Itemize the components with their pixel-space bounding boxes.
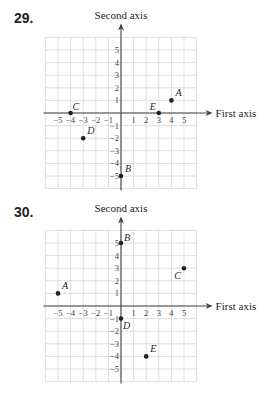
plots-canvas: First axisSecond axis−5−4−3−2−112345−5−4…: [0, 0, 272, 400]
x-tick-label: 4: [169, 115, 174, 125]
y-tick-label: −5: [110, 364, 119, 374]
point-B: [119, 241, 124, 246]
point-label-B: B: [124, 232, 130, 243]
y-tick-label: −2: [110, 133, 119, 143]
point-D: [81, 136, 86, 141]
x-tick-label: 1: [131, 115, 135, 125]
x-tick-label: −2: [91, 308, 100, 318]
y-tick-label: 2: [115, 83, 119, 93]
y-axis-label: Second axis: [95, 9, 148, 21]
x-tick-label: −3: [79, 115, 88, 125]
x-tick-label: 3: [157, 308, 161, 318]
x-tick-label: 5: [182, 115, 186, 125]
y-tick-label: −4: [110, 351, 120, 361]
point-label-C: C: [174, 270, 181, 281]
point-label-D: D: [122, 320, 131, 331]
x-tick-label: 4: [169, 308, 174, 318]
x-tick-label: 2: [144, 115, 148, 125]
coordinate-plane-30: First axisSecond axis−5−4−3−2−112345−5−4…: [43, 202, 256, 383]
x-tick-label: 5: [182, 308, 186, 318]
coordinate-plane-29: First axisSecond axis−5−4−3−2−112345−5−4…: [43, 9, 256, 190]
y-axis-label: Second axis: [95, 202, 148, 214]
y-tick-label: −3: [110, 339, 119, 349]
point-label-E: E: [149, 101, 156, 112]
x-tick-label: −4: [66, 115, 76, 125]
point-A: [56, 291, 61, 296]
point-A: [169, 98, 174, 103]
x-tick-label: 1: [131, 308, 135, 318]
point-C: [182, 266, 187, 271]
y-tick-label: −2: [110, 326, 119, 336]
point-label-B: B: [125, 163, 131, 174]
x-tick-label: −2: [91, 115, 100, 125]
x-axis-label: First axis: [216, 107, 257, 119]
x-tick-label: 3: [157, 115, 161, 125]
x-tick-label: −5: [53, 308, 62, 318]
x-tick-label: −4: [66, 308, 76, 318]
point-label-A: A: [174, 87, 182, 98]
point-B: [119, 174, 124, 179]
y-tick-label: 1: [115, 95, 119, 105]
y-tick-label: 3: [115, 70, 119, 80]
x-axis-label: First axis: [216, 300, 257, 312]
point-label-C: C: [73, 101, 80, 112]
point-E: [157, 111, 162, 116]
y-tick-label: 3: [115, 263, 119, 273]
y-tick-label: 1: [115, 288, 119, 298]
y-tick-label: −1: [110, 121, 119, 131]
x-tick-label: −3: [79, 308, 88, 318]
y-tick-label: 2: [115, 276, 119, 286]
point-label-E: E: [149, 343, 156, 354]
point-E: [144, 354, 149, 359]
y-tick-label: −1: [110, 314, 119, 324]
y-tick-label: 5: [115, 45, 119, 55]
x-tick-label: −5: [53, 115, 62, 125]
point-label-A: A: [61, 280, 69, 291]
y-tick-label: −5: [110, 171, 119, 181]
point-label-D: D: [86, 125, 95, 136]
y-tick-label: 5: [115, 238, 119, 248]
y-tick-label: −3: [110, 146, 119, 156]
x-tick-label: 2: [144, 308, 148, 318]
y-tick-label: −4: [110, 158, 120, 168]
